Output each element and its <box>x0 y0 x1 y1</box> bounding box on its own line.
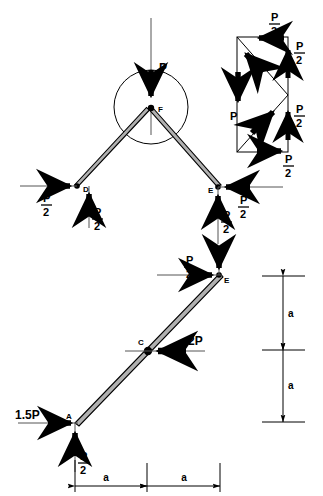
polygon-label-p2-right-lower-denominator: 2 <box>296 117 302 129</box>
force-label-p2-e-horizontal-numerator: P <box>240 194 247 206</box>
force-label-p2-e-vertical-denominator: 2 <box>223 223 229 235</box>
dimension-label-a-horizontal-1: a <box>103 472 109 483</box>
polygon-label-p2-right-upper-numerator: P <box>296 40 303 52</box>
force-label-p2-a-numerator: P <box>80 450 87 462</box>
force-label-p2-d-horizontal-denominator: 2 <box>43 206 49 218</box>
force-label-2p: 2P <box>188 334 203 348</box>
force-label-p2-a-denominator: 2 <box>80 464 86 476</box>
polygon-label-p2-right-upper-denominator: 2 <box>296 54 302 66</box>
force-label-p2-e-vertical-numerator: P <box>223 209 230 221</box>
force-label-p2-d-horizontal-numerator: P <box>43 192 50 204</box>
force-label-p2-d-vertical-numerator: P <box>94 206 101 218</box>
force-polygon-diagonal-upper <box>237 37 288 95</box>
engineering-diagram-svg: P F P 2 P 2 D P 2 P 2 E <box>0 0 323 496</box>
polygon-force-arrow-diagonal-lower <box>252 112 273 133</box>
polygon-label-p2-right-lower-numerator: P <box>296 103 303 115</box>
joint-label-a: A <box>66 412 72 421</box>
force-label-p2-e-horizontal-denominator: 2 <box>240 208 246 220</box>
force-label-p-at-f: P <box>159 61 167 75</box>
member-fe <box>150 108 222 186</box>
dimension-label-a-vertical-1: a <box>288 308 294 319</box>
force-label-p2-e-lower-numerator: P <box>186 254 193 266</box>
polygon-label-p2-bottom-numerator: P <box>285 153 292 165</box>
force-label-p2-e-lower-denominator: 2 <box>186 268 192 280</box>
force-label-1p5p: 1.5P <box>15 408 40 422</box>
polygon-label-p2-top-denominator: 2 <box>271 25 277 37</box>
force-label-p2-d-vertical-denominator: 2 <box>94 220 100 232</box>
joint-label-e-lower: E <box>224 276 230 285</box>
member-fd <box>75 108 150 186</box>
joint-label-f: F <box>158 105 163 114</box>
joint-node-f <box>148 105 154 111</box>
polygon-label-p2-bottom-denominator: 2 <box>285 167 291 179</box>
force-polygon-diagram: P P 2 P 2 P 2 P 2 <box>230 11 305 179</box>
upper-free-body-diagram: P F P 2 P 2 D P 2 P 2 E <box>20 18 283 244</box>
joint-label-e-upper: E <box>208 186 214 195</box>
joint-label-d: D <box>83 185 89 194</box>
dimension-label-a-vertical-2: a <box>288 380 294 391</box>
joint-label-c: C <box>138 338 144 347</box>
polygon-force-label-p: P <box>230 110 237 122</box>
lower-free-body-diagram: P 2 E 2P C 1.5P P 2 A <box>15 249 230 476</box>
force-polygon-outline <box>237 37 288 152</box>
polygon-label-p2-top-numerator: P <box>271 11 278 23</box>
diagram-canvas: P F P 2 P 2 D P 2 P 2 E <box>0 0 323 496</box>
dimension-label-a-horizontal-2: a <box>181 472 187 483</box>
